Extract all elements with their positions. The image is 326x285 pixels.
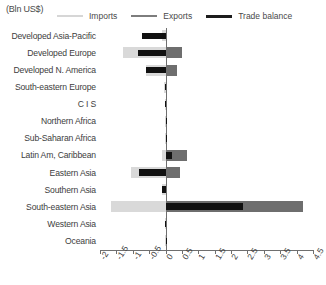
legend-label-imports: Imports bbox=[89, 12, 117, 21]
bar-group bbox=[100, 130, 313, 147]
bar-trade-balance bbox=[162, 186, 166, 192]
x-axis-tick-label: 1 bbox=[196, 252, 207, 261]
x-axis-tick-label: 2 bbox=[229, 252, 240, 261]
bar-group bbox=[100, 62, 313, 79]
bar-group bbox=[100, 28, 313, 45]
bar-imports bbox=[111, 201, 165, 212]
bar-group bbox=[100, 45, 313, 62]
x-axis-tick-label: -1 bbox=[131, 250, 143, 262]
bar-exports bbox=[166, 218, 167, 229]
chart-legend: Imports Exports Trade balance bbox=[57, 9, 306, 23]
x-axis-tick-label: 4 bbox=[295, 252, 306, 261]
legend-swatch-exports-icon bbox=[131, 15, 157, 18]
units-caption: (Bln US$) bbox=[6, 4, 43, 14]
bar-trade-balance bbox=[165, 101, 166, 107]
bar-group bbox=[100, 233, 313, 250]
bar-trade-balance bbox=[166, 118, 167, 124]
bar-trade-balance bbox=[166, 152, 173, 158]
bar-trade-balance bbox=[165, 84, 166, 90]
bar-group bbox=[100, 216, 313, 233]
bar-trade-balance bbox=[166, 238, 167, 244]
category-label: Western Asia bbox=[0, 219, 96, 229]
category-label: South-eastern Asia bbox=[0, 202, 96, 212]
legend-swatch-trade-balance-icon bbox=[206, 15, 232, 18]
x-axis-tick-label: 0 bbox=[164, 252, 175, 261]
bar-trade-balance bbox=[139, 169, 165, 175]
bar-trade-balance bbox=[142, 33, 166, 39]
bar-group bbox=[100, 165, 313, 182]
category-label: Southern Asia bbox=[0, 185, 96, 195]
bar-group bbox=[100, 113, 313, 130]
x-axis-tick-label: 4.5 bbox=[311, 246, 326, 261]
bar-group bbox=[100, 96, 313, 113]
bar-trade-balance bbox=[138, 50, 166, 56]
legend-label-trade-balance: Trade balance bbox=[238, 12, 292, 21]
bar-exports bbox=[166, 47, 182, 58]
bar-group bbox=[100, 199, 313, 216]
category-label: Oceania bbox=[0, 236, 96, 246]
category-label: Northern Africa bbox=[0, 116, 96, 126]
bar-exports bbox=[166, 184, 168, 195]
x-axis: -2-1.5-1-0.500.511.522.533.544.5 bbox=[100, 250, 314, 251]
bar-trade-balance bbox=[146, 67, 166, 73]
bar-exports bbox=[166, 82, 167, 93]
category-label: Developed N. America bbox=[0, 65, 96, 75]
bar-exports bbox=[166, 30, 167, 41]
bar-group bbox=[100, 148, 313, 165]
bar-exports bbox=[166, 167, 181, 178]
x-axis-tick-label: 3 bbox=[262, 252, 273, 261]
category-label: Latin Am, Caribbean bbox=[0, 150, 96, 160]
bar-exports bbox=[166, 65, 177, 76]
bar-trade-balance bbox=[166, 135, 167, 141]
legend-item-imports: Imports bbox=[57, 12, 117, 21]
bar-group bbox=[100, 79, 313, 96]
legend-label-exports: Exports bbox=[163, 12, 192, 21]
bar-group bbox=[100, 182, 313, 199]
bar-trade-balance bbox=[166, 203, 243, 209]
category-label: South-eastern Europe bbox=[0, 82, 96, 92]
bar-trade-balance bbox=[165, 221, 166, 227]
legend-item-exports: Exports bbox=[131, 12, 192, 21]
category-label: Sub-Saharan Africa bbox=[0, 133, 96, 143]
category-label: Developed Asia-Pacific bbox=[0, 31, 96, 41]
category-axis-labels: Developed Asia-PacificDeveloped EuropeDe… bbox=[0, 28, 96, 250]
plot-area bbox=[100, 28, 313, 250]
category-label: Eastern Asia bbox=[0, 168, 96, 178]
x-axis-tick-label: -2 bbox=[98, 250, 110, 262]
category-label: Developed Europe bbox=[0, 48, 96, 58]
legend-swatch-imports-icon bbox=[57, 15, 83, 17]
legend-item-trade-balance: Trade balance bbox=[206, 12, 292, 21]
category-label: C I S bbox=[0, 99, 96, 109]
